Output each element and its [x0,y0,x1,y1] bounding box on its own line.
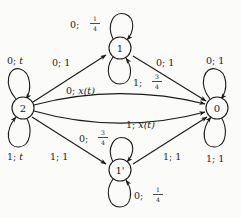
label-loop1ptop-denominator: 4 [101,139,105,146]
label-loop-1prime-top: 0; 3 4 [79,129,108,146]
node-group: 1 2 0 1' [12,37,228,181]
node-1-prime-label: 1' [115,165,124,176]
label-loop1pbot-numerator: 1 [156,186,160,193]
label-e21-weight: 1 [64,57,70,68]
label-loop1top-numerator: 1 [93,15,97,22]
edge-2-to-0-top [34,94,205,105]
label-edge-2-to-0-bottom: 1; x(t) [126,119,155,130]
label-loop1bot-numerator: 3 [155,73,159,80]
label-e1p0-weight: 1 [175,151,181,162]
self-loop-1-bottom [108,57,130,84]
self-loop-0-bottom [204,117,225,147]
label-loop2top-weight: t [19,55,23,66]
label-loop1bot-sep: ; [139,77,142,88]
label-edge-1-to-0: 0; 1 [156,57,174,68]
state-transition-diagram: 1 2 0 1' 0; 1 4 1; 3 4 [0,0,241,218]
figure-canvas: 1 2 0 1' 0; 1 4 1; 3 4 [0,0,241,218]
label-loop-1-bottom: 1; 3 4 [133,73,162,90]
self-loop-1prime-bottom [108,179,130,207]
label-edge-2-to-1prime: 1; 1 [50,151,68,162]
self-loop-2-top [8,69,29,99]
label-e20b-weight: x(t) [138,119,155,130]
label-loop1ptop-sep: ; [85,133,88,144]
label-loop2bot-weight: t [19,151,23,162]
label-loop0top-weight: 1 [218,55,224,66]
label-loop1pbot-sep: ; [140,190,143,201]
label-loop-2-top: 0; t [7,55,23,66]
label-loop-0-top: 0; 1 [206,55,224,66]
label-loop-1-top: 0; 1 4 [70,15,100,32]
self-loop-2-bottom [8,117,30,147]
node-2-label: 2 [20,103,26,114]
label-edge-2-to-0-top: 0; x(t) [66,85,95,96]
node-1-label: 1 [117,43,123,54]
label-loop1bot-denominator: 4 [155,83,159,90]
label-loop-1prime-bottom: 0; 1 4 [134,186,163,203]
label-edge-2-to-1: 0; 1 [52,57,70,68]
label-loop1top-sep: ; [76,19,79,30]
node-0-label: 0 [214,103,220,114]
label-loop0bot-weight: 1 [218,153,224,164]
label-loop-0-bottom: 1; 1 [206,153,224,164]
label-loop1top-denominator: 4 [93,25,97,32]
self-loop-1-top [110,14,132,40]
label-e10-weight: 1 [168,57,174,68]
label-edge-1prime-to-0: 1; 1 [163,151,181,162]
label-loop1ptop-numerator: 3 [101,129,105,136]
edge-2-to-0-bottom [34,111,205,123]
svg-text:0;: 0; [70,19,79,30]
self-loop-0-top [203,69,225,99]
label-e20t-weight: x(t) [78,85,95,96]
self-loop-1prime-top [110,138,132,162]
svg-text:0;: 0; [134,190,143,201]
svg-text:1;: 1; [133,77,142,88]
label-e21p-weight: 1 [62,151,68,162]
svg-text:0;: 0; [79,133,88,144]
label-loop1pbot-denominator: 4 [156,196,160,203]
edge-2-to-1prime [32,117,106,164]
label-loop-2-bottom: 1; t [7,151,23,162]
